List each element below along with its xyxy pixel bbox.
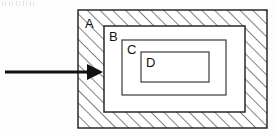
diagram-canvas: A B C D <box>0 0 275 136</box>
region-a-label: A <box>85 16 94 31</box>
region-b-label: B <box>109 29 118 44</box>
region-d-label: D <box>146 55 155 70</box>
nested-regions-svg: A B C D <box>0 0 275 136</box>
region-c-label: C <box>127 42 136 57</box>
